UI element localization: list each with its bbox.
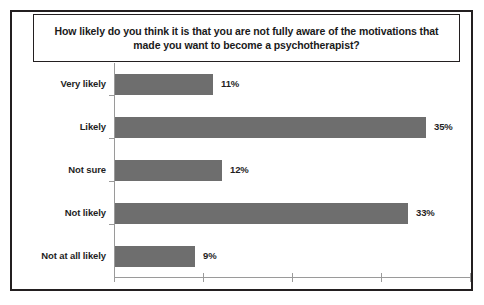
bar-row: Not sure 12% [0, 150, 484, 193]
category-label: Very likely [0, 78, 106, 89]
chart-title: How likely do you think it is that you a… [34, 24, 459, 52]
bar-value-label: 35% [434, 121, 453, 132]
bar-value-label: 33% [416, 207, 435, 218]
bar-row: Very likely 11% [0, 64, 484, 107]
bar [115, 246, 195, 267]
bar-row: Not at all likely 9% [0, 236, 484, 279]
plot-area: Very likely 11% Likely 35% Not sure 12% … [0, 62, 484, 291]
bar-value-label: 12% [230, 164, 249, 175]
bar [115, 203, 408, 224]
bar-row: Likely 35% [0, 107, 484, 150]
category-label: Not at all likely [0, 250, 106, 261]
chart-title-box: How likely do you think it is that you a… [33, 14, 460, 62]
bar-value-label: 9% [203, 250, 217, 261]
category-label: Likely [0, 121, 106, 132]
category-label: Not sure [0, 164, 106, 175]
bar [115, 160, 222, 181]
bar-value-label: 11% [221, 78, 239, 89]
bar [115, 74, 213, 95]
chart-figure: How likely do you think it is that you a… [0, 0, 484, 305]
bar [115, 117, 426, 138]
category-label: Not likely [0, 207, 106, 218]
bar-row: Not likely 33% [0, 193, 484, 236]
